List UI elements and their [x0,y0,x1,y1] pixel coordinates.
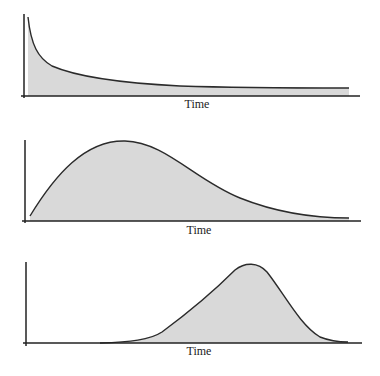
figure: Time Time Time [0,0,380,376]
chart-3-area [100,264,348,343]
chart-2 [22,140,361,223]
chart-3-x-label: Time [187,344,212,359]
charts-canvas [0,0,380,376]
chart-2-x-label: Time [187,223,212,238]
chart-1-area [28,17,349,96]
chart-1-x-label: Time [185,97,210,112]
chart-1 [21,14,360,98]
chart-2-area [30,141,349,221]
chart-3 [23,262,362,346]
